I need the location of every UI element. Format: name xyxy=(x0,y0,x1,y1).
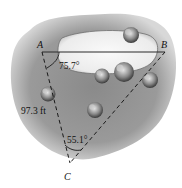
angle-a-label: 75.7° xyxy=(59,61,80,71)
tree-icon xyxy=(123,27,139,43)
point-label-a: A xyxy=(36,39,44,50)
tree-icon xyxy=(114,62,134,82)
tree-icon xyxy=(87,102,103,118)
side-ac-label: 97.3 ft xyxy=(21,106,46,116)
tree-icon xyxy=(95,69,110,84)
point-label-c: C xyxy=(64,171,71,182)
tree-icon xyxy=(41,87,56,102)
angle-c-label: 55.1° xyxy=(67,135,88,145)
point-label-b: B xyxy=(161,39,167,50)
tree-icon xyxy=(142,72,158,88)
diagram-canvas: A B C 75.7° 97.3 ft 55.1° xyxy=(0,0,182,188)
